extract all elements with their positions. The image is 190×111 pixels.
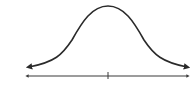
bell-curve-diagram [0,0,190,111]
bell-curve [29,6,187,67]
